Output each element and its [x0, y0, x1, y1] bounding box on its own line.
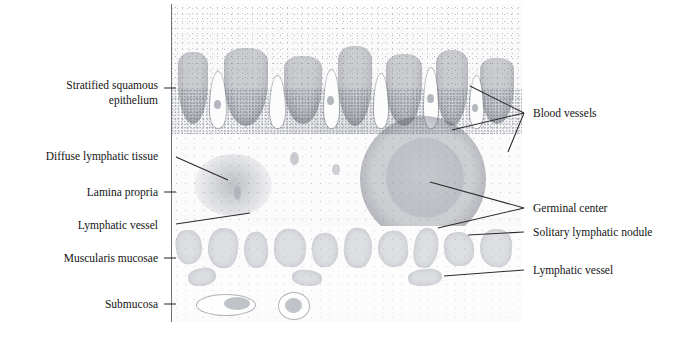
submucosa-stipple	[172, 286, 522, 322]
label-submucosa: Submucosa	[10, 297, 158, 312]
label-lymphatic-vessel-right: Lymphatic vessel	[533, 263, 688, 278]
epithelium-layer	[172, 4, 522, 139]
diffuse-lymphatic-tissue	[194, 154, 272, 216]
muscularis-mucosae-layer	[172, 226, 522, 288]
plate-left-rule	[171, 4, 172, 322]
lymphatic-vessel	[234, 186, 241, 200]
label-muscularis-mucosae: Muscularis mucosae	[10, 251, 158, 266]
germinal-center	[386, 138, 464, 218]
submucosa-layer: JkMc	[172, 286, 522, 322]
blood-vessel	[427, 94, 434, 103]
muscularis-stipple	[172, 226, 522, 288]
blood-vessel	[472, 104, 478, 112]
label-lamina-propria: Lamina propria	[10, 185, 158, 200]
label-diffuse-lymphatic-tissue: Diffuse lymphatic tissue	[10, 149, 158, 164]
blood-vessel	[327, 96, 334, 105]
blood-vessel	[290, 152, 299, 165]
blood-vessel	[332, 164, 340, 175]
lamina-propria-layer	[172, 134, 522, 234]
figure-page: JkMc Stratified squam	[0, 0, 695, 346]
label-blood-vessels: Blood vessels	[533, 106, 688, 121]
blood-vessel	[214, 100, 221, 109]
label-stratified-squamous-epithelium: Stratified squamous epithelium	[10, 78, 158, 107]
label-solitary-lymphatic-nodule: Solitary lymphatic nodule	[533, 225, 693, 240]
histology-illustration: JkMc	[172, 4, 522, 322]
label-lymphatic-vessel-left: Lymphatic vessel	[10, 218, 158, 233]
label-germinal-center: Germinal center	[533, 201, 688, 216]
